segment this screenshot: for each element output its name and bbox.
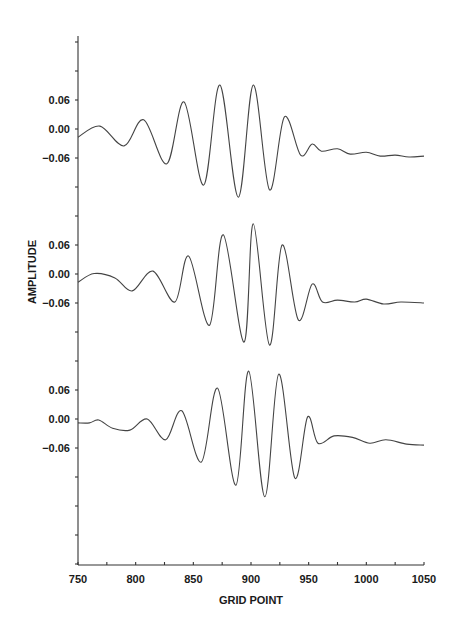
waveform-trace-3 — [78, 371, 424, 497]
y-tick-label: 0.06 — [49, 239, 70, 251]
x-axis: 75080085090095010001050 — [69, 562, 436, 585]
waveform-trace-1 — [78, 85, 424, 197]
waveform-trace-2 — [78, 224, 424, 345]
x-tick-label: 900 — [242, 573, 260, 585]
x-tick-label: 950 — [299, 573, 317, 585]
y-axis-title: AMPLITUDE — [26, 240, 38, 304]
y-tick-label: −0.06 — [42, 297, 70, 309]
x-tick-label: 800 — [126, 573, 144, 585]
y-axis: 0.060.00−0.060.060.00−0.060.060.00−0.06 — [42, 36, 78, 565]
x-tick-label: 850 — [184, 573, 202, 585]
y-tick-label: 0.06 — [49, 94, 70, 106]
y-tick-label: 0.00 — [49, 413, 70, 425]
amplitude-chart: 0.060.00−0.060.060.00−0.060.060.00−0.06 … — [0, 0, 458, 629]
x-axis-title: GRID POINT — [219, 594, 283, 606]
x-tick-label: 1050 — [412, 573, 436, 585]
x-tick-label: 1000 — [354, 573, 378, 585]
y-tick-label: 0.06 — [49, 384, 70, 396]
y-tick-label: −0.06 — [42, 152, 70, 164]
y-tick-label: 0.00 — [49, 123, 70, 135]
x-tick-label: 750 — [69, 573, 87, 585]
y-tick-label: −0.06 — [42, 442, 70, 454]
traces — [78, 85, 424, 497]
y-tick-label: 0.00 — [49, 268, 70, 280]
